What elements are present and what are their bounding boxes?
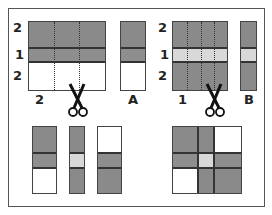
cut-line: [54, 22, 55, 90]
patch-light: [198, 153, 214, 168]
scissors-icon: [205, 84, 225, 120]
strip-a: [120, 21, 146, 91]
seam-line: [173, 152, 241, 154]
light-band: [173, 48, 227, 62]
strip-b: [240, 21, 257, 91]
seam-line: [98, 167, 121, 169]
dark-band: [98, 168, 121, 193]
patch-white: [214, 127, 241, 153]
strip-a-label: A: [128, 93, 138, 106]
row-label-middle: 1: [160, 48, 169, 61]
white-band: [29, 62, 105, 90]
dark-band: [121, 22, 145, 48]
seam-line: [173, 167, 241, 169]
patch-dark: [214, 168, 241, 193]
patch-medium: [173, 153, 198, 168]
scissors-icon: [68, 84, 88, 120]
dark-band: [241, 22, 256, 48]
strip-1: [32, 126, 57, 194]
patch-medium: [214, 153, 241, 168]
fabric-panel-a: [28, 21, 106, 91]
seam-line: [33, 152, 56, 154]
row-label-top: 2: [13, 21, 22, 34]
white-band: [98, 127, 121, 153]
row-label-top: 2: [158, 21, 167, 34]
seam-line: [70, 167, 84, 169]
row-label-bottom: 2: [13, 69, 22, 82]
medium-band: [98, 153, 121, 168]
light-band: [241, 48, 256, 62]
cut-line: [187, 22, 188, 90]
strip-b-label: B: [244, 93, 254, 106]
dark-band: [241, 62, 256, 90]
seam-line: [98, 152, 121, 154]
patch-white: [173, 168, 198, 193]
seam-line: [29, 61, 105, 63]
dark-band: [173, 22, 227, 48]
white-band: [33, 168, 56, 193]
medium-band: [29, 48, 105, 62]
seam-line: [241, 47, 256, 49]
seam-line: [33, 167, 56, 169]
strip-3: [97, 126, 122, 194]
medium-band: [121, 48, 145, 62]
white-band: [121, 62, 145, 90]
row-label-middle: 1: [15, 48, 24, 61]
panel-width-label: 1: [178, 93, 187, 106]
seam-line: [197, 127, 199, 193]
seam-line: [213, 127, 215, 193]
medium-band: [33, 153, 56, 168]
patch-dark: [198, 168, 214, 193]
panel-width-label: 2: [35, 93, 44, 106]
seam-line: [29, 47, 105, 49]
patch-dark: [173, 127, 198, 153]
patch-dark: [198, 127, 214, 153]
dark-band: [33, 127, 56, 153]
seam-line: [173, 47, 227, 49]
cut-line: [201, 22, 202, 90]
cut-line: [79, 22, 80, 90]
seam-line: [173, 61, 227, 63]
fabric-panel-b: [172, 21, 228, 91]
seam-line: [70, 152, 84, 154]
nine-patch-block: [172, 126, 242, 194]
dark-band: [70, 127, 84, 153]
row-label-bottom: 2: [158, 69, 167, 82]
dark-band: [70, 168, 84, 193]
seam-line: [121, 47, 145, 49]
dark-band: [29, 22, 105, 48]
seam-line: [121, 61, 145, 63]
strip-2: [69, 126, 85, 194]
cut-line: [214, 22, 215, 90]
light-band: [70, 153, 84, 168]
seam-line: [241, 61, 256, 63]
